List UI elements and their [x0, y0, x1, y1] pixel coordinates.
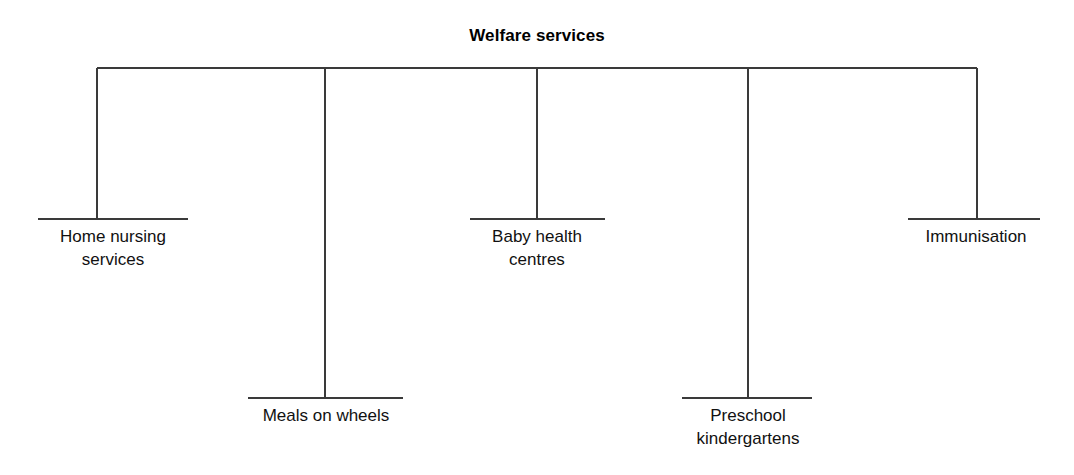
node-label-home-nursing-services: Home nursing services	[60, 226, 166, 271]
node-label-baby-health-centres: Baby health centres	[492, 226, 582, 271]
node-label-meals-on-wheels: Meals on wheels	[263, 405, 390, 428]
node-label-preschool-kindergartens: Preschool kindergartens	[696, 405, 799, 450]
diagram-canvas: Welfare services Home nursing servicesMe…	[0, 0, 1074, 475]
node-label-immunisation: Immunisation	[925, 226, 1026, 249]
